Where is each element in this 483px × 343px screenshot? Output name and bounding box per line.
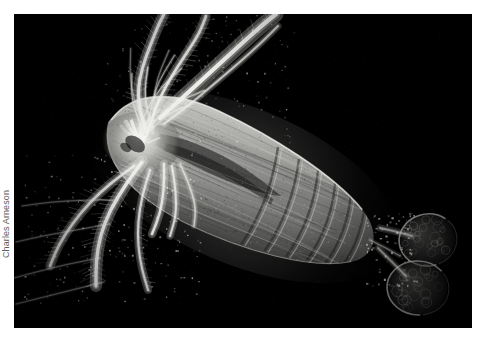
photo-figure [14,14,472,328]
page-background: Charles Arneson [0,0,483,343]
copepod-micrograph-image [14,14,472,328]
photo-credit: Charles Arneson [0,162,12,258]
